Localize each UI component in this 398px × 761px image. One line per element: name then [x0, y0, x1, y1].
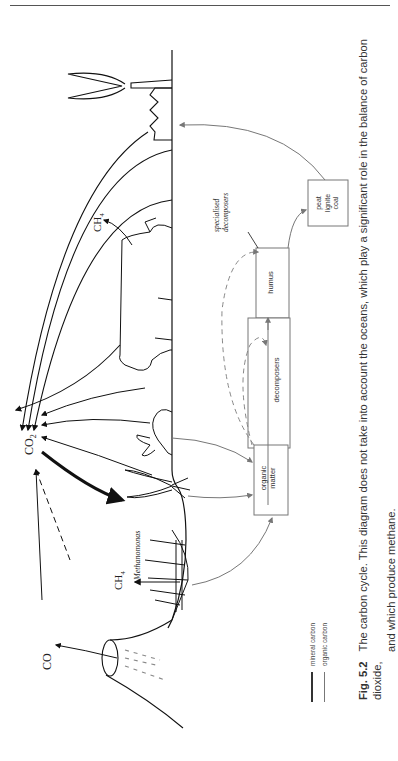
caption-line-1: The carbon cycle. This diagram does not …	[357, 39, 383, 700]
cow-icon	[120, 218, 172, 370]
figure-caption: Fig. 5.2The carbon cycle. This diagram d…	[356, 10, 398, 700]
organic-matter-box: organic matter	[259, 448, 277, 508]
rabbit-icon	[137, 410, 172, 456]
ch4-cow-arrow	[104, 220, 132, 245]
ch4-cow-label: CH4	[91, 213, 106, 232]
humus-box: humus	[266, 260, 275, 305]
mineral-carbon-arcs	[16, 132, 172, 430]
co-arrow	[56, 645, 117, 658]
legend-mineral-label: mineral carbon	[309, 623, 316, 666]
co2-label: CO2	[22, 434, 38, 455]
bog-reeds-icon	[145, 530, 188, 620]
legend: mineral carbon organic carbon	[306, 623, 330, 702]
mineral-line-swatch	[311, 672, 313, 702]
decomposers-box: decomposers	[272, 335, 281, 425]
plant-icon	[125, 470, 190, 498]
figure-number: Fig. 5.2	[357, 661, 369, 700]
fossil-formation-arc	[180, 125, 325, 180]
ch4-bog-label: CH4	[112, 571, 127, 590]
peat-lignite-coal-box: peat lignite coal	[315, 184, 341, 222]
specialised-decomposers-label: specialised decomposers	[212, 193, 230, 232]
factory-chimney-icon	[68, 73, 172, 140]
methanomonas-label: Methanomonas	[133, 531, 142, 580]
legend-mineral: mineral carbon	[306, 623, 318, 702]
organic-line-swatch	[324, 672, 325, 702]
co-label: CO	[40, 653, 55, 670]
specialised-pointer	[248, 232, 258, 248]
caption-line-2: and which produce methane.	[384, 10, 398, 700]
legend-organic: organic carbon	[318, 623, 330, 702]
volcano-icon	[102, 620, 183, 728]
ground-line	[168, 50, 186, 628]
legend-organic-label: organic carbon	[321, 623, 328, 666]
